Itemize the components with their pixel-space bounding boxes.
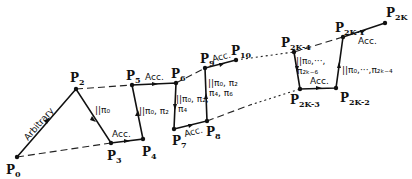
label-p4: P4 bbox=[142, 145, 157, 161]
lower-envelope bbox=[17, 89, 300, 157]
label-p8: P8 bbox=[206, 125, 221, 141]
annotation-par-p2k2: ||π₀,···,π₂ₖ₋₄ bbox=[342, 65, 393, 75]
annotation-par-p8p9-1: ||π₀, π₂ bbox=[208, 78, 238, 88]
label-p10: P10 bbox=[231, 44, 252, 60]
annotation-par-p2p3: ||π₀ bbox=[95, 105, 110, 115]
annotation-par-p6p7-2: π₄ bbox=[178, 104, 187, 114]
annotation-acc-p3p4: Acc. bbox=[112, 129, 131, 139]
annotation-par-p6p7-1: ||π₀, π₂, bbox=[176, 94, 209, 104]
label-p2k-1: P2K-1 bbox=[335, 21, 365, 37]
annotation-par-p2k4-2: π₂ₖ₋₆ bbox=[297, 66, 319, 76]
point-labels: P0 P2 P3 P4 P5 P6 P7 P8 P9 P10 P2K-4 P2K… bbox=[6, 6, 409, 179]
label-p5: P5 bbox=[126, 69, 141, 85]
label-p0: P0 bbox=[6, 163, 21, 179]
label-p6: P6 bbox=[171, 67, 186, 83]
annotation-acc-p2k1: Acc. bbox=[358, 36, 377, 46]
label-p2k: P2K bbox=[386, 6, 409, 22]
label-p2k-2: P2K-2 bbox=[340, 91, 370, 107]
annotation-par-p4p5: ||π₀, π₂ bbox=[139, 106, 169, 116]
label-p2: P2 bbox=[70, 71, 85, 87]
annotation-acc-p5p6: Acc. bbox=[145, 72, 164, 82]
label-p2k-3: P2K-3 bbox=[290, 93, 320, 109]
annotation-par-p2k4-1: ||π₀,···, bbox=[296, 56, 325, 66]
annotation-par-p8p9-2: π₄, π₆ bbox=[209, 88, 233, 98]
annotation-arbitrary: Arbitrary bbox=[22, 105, 56, 142]
zigzag-construction-diagram: P0 P2 P3 P4 P5 P6 P7 P8 P9 P10 P2K-4 P2K… bbox=[0, 0, 412, 179]
label-p2k-4: P2K-4 bbox=[281, 36, 311, 52]
vertices bbox=[15, 21, 387, 159]
construction-path bbox=[17, 23, 385, 157]
label-p3: P3 bbox=[107, 149, 122, 165]
annotation-acc-p2k3: Acc. bbox=[310, 76, 329, 86]
